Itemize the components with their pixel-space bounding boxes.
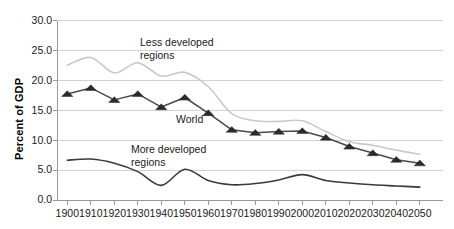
series-markers-group [62,85,426,166]
gridlines-group [57,21,443,200]
x-tick-marks-group [67,201,420,205]
y-axis-title: Percent of GDP [13,78,25,160]
data-point-marker [85,85,96,91]
y-tick-label: 20.0 [14,74,52,86]
y-tick-label: 30.0 [14,14,52,26]
data-point-marker [367,150,378,156]
series-line-0 [67,57,420,154]
y-tick-label: 25.0 [14,44,52,56]
data-point-marker [179,94,190,100]
y-tick-label: 0.0 [14,193,52,205]
series-annotation-1: World [176,113,203,126]
series-paths-group [67,57,420,187]
y-tick-label: 10.0 [14,134,52,146]
data-point-marker [320,134,331,140]
series-line-1 [67,88,420,163]
series-line-2 [67,159,420,187]
series-annotation-2: More developed regions [131,143,206,169]
chart-container: Percent of GDP 30.025.020.015.010.05.00.… [0,0,454,229]
x-tick-label: 2050 [405,207,435,219]
chart-plot-svg [0,0,454,229]
data-point-marker [391,156,402,162]
y-tick-label: 5.0 [14,163,52,175]
data-point-marker [344,143,355,149]
data-point-marker [132,91,143,97]
series-annotation-0: Less developed regions [140,36,214,62]
y-tick-label: 15.0 [14,104,52,116]
